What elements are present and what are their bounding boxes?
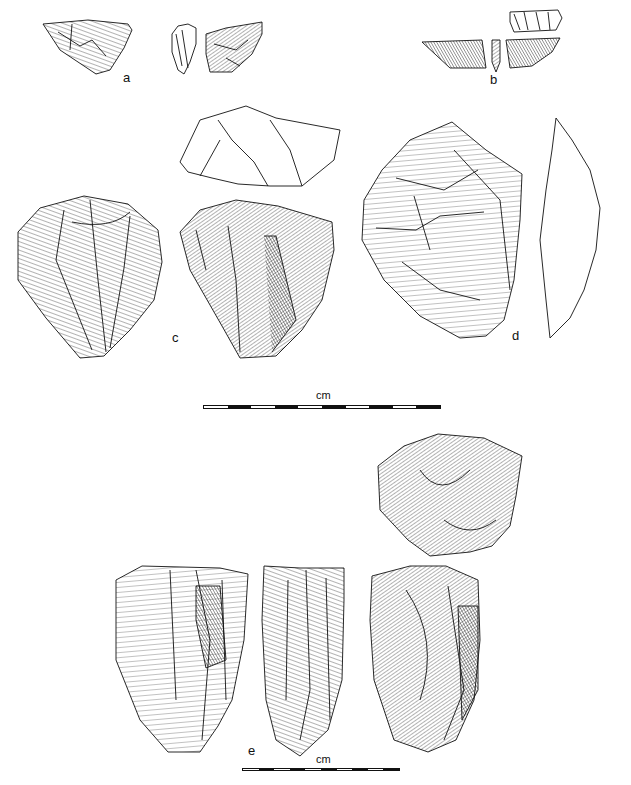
artifact-e <box>116 434 522 756</box>
label-e: e <box>248 744 255 757</box>
scale-bar-lower <box>242 768 400 771</box>
label-d: d <box>512 329 519 342</box>
scale-bar-upper <box>203 405 441 409</box>
lithic-plate: a b c d e cm cm <box>0 0 631 785</box>
scale-unit-upper: cm <box>316 390 331 401</box>
artifact-b <box>422 10 562 72</box>
scale-unit-lower: cm <box>316 754 331 765</box>
label-c: c <box>172 331 179 344</box>
label-b: b <box>490 73 497 86</box>
artifact-a <box>43 20 262 74</box>
label-a: a <box>123 71 130 84</box>
artifact-c <box>18 106 340 358</box>
artifact-d <box>362 118 600 338</box>
